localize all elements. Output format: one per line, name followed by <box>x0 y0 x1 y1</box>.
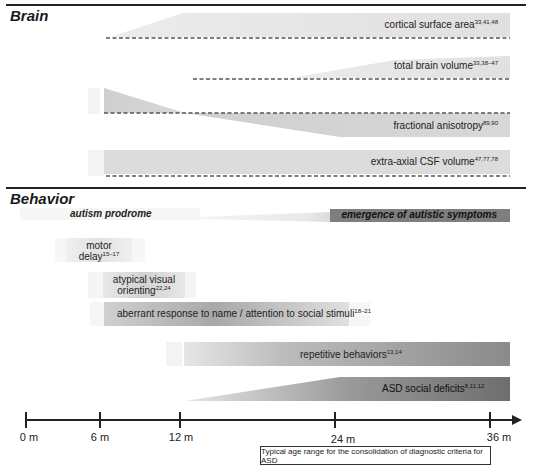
tick-12m <box>179 412 181 428</box>
csf-volume-label: extra-axial CSF volume47,77,78 <box>371 156 498 167</box>
tick-label-36m: 36 m <box>487 431 511 443</box>
tick-label-0m: 0 m <box>20 431 38 443</box>
axis-arrowhead <box>512 415 522 425</box>
total-brain-volume-label: total brain volume33,38–47 <box>394 60 498 71</box>
tick-label-6m: 6 m <box>91 431 109 443</box>
fa-ghost <box>88 88 100 114</box>
visual-orienting-label: atypical visual orienting22,24 <box>103 274 185 296</box>
tick-label-12m: 12 m <box>169 431 193 443</box>
motor-delay-label: motor delay15–17 <box>66 240 132 262</box>
social-deficits-label: ASD social deficits8,11,12 <box>382 383 484 394</box>
csf-ghost <box>88 150 104 176</box>
tick-0m <box>25 412 27 428</box>
repetitive-behaviors-label: repetitive behaviors13,14 <box>300 349 402 360</box>
fa-upper-shape <box>104 88 185 113</box>
cortical-surface-area-label: cortical surface area33,41,48 <box>385 19 498 30</box>
autism-prodrome-label: autism prodrome <box>70 208 152 219</box>
tick-label-24m: 24 m <box>331 433 355 445</box>
tick-6m <box>99 412 101 428</box>
aberrant-response-label: aberrant response to name / attention to… <box>117 308 371 319</box>
fractional-anisotropy-label: fractional anisotropy89,90 <box>393 120 498 131</box>
tick-24m <box>334 412 336 428</box>
emergence-label: emergence of autistic symptoms <box>341 209 497 220</box>
repetitive-ghost <box>166 342 182 366</box>
tick-36m <box>489 412 491 428</box>
diagnostic-range-box: Typical age range for the consolidation … <box>260 446 491 465</box>
